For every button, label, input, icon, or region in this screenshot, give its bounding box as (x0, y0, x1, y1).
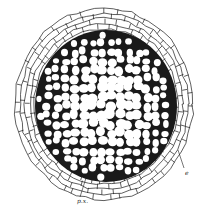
root-cross-section-figure (0, 0, 208, 223)
label-px: p.x. (77, 198, 88, 204)
stele-cells (35, 30, 177, 182)
label-e: e (185, 170, 189, 176)
